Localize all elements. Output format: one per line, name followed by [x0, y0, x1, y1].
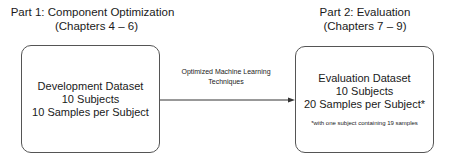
- evaluation-samples: 20 Samples per Subject*: [304, 98, 425, 111]
- evaluation-dataset-title: Evaluation Dataset: [318, 72, 410, 85]
- evaluation-dataset-box: Evaluation Dataset 10 Subjects 20 Sample…: [295, 46, 434, 153]
- evaluation-subjects: 10 Subjects: [336, 85, 393, 98]
- evaluation-footnote: *with one subject containing 19 samples: [311, 119, 418, 127]
